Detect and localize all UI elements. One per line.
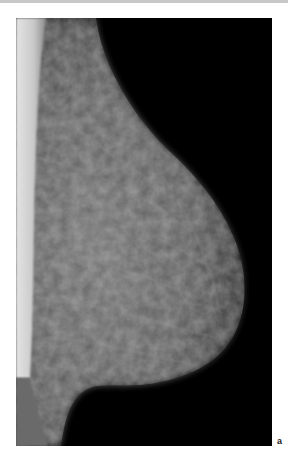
panel-label: a (277, 436, 282, 446)
mammogram-image (16, 18, 272, 446)
top-rule (0, 0, 288, 3)
